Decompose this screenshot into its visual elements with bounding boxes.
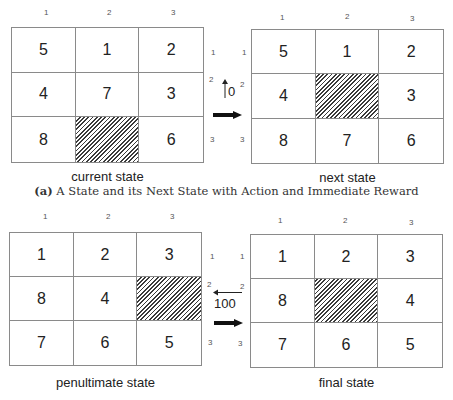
puzzle-grid-next-state: 5 1 2 4 3 8 7 6 [251, 29, 444, 164]
tile: 1 [10, 233, 74, 277]
col-index: 2 [107, 8, 111, 17]
tile: 7 [316, 119, 380, 163]
tile: 1 [316, 30, 380, 74]
puzzle-grid-penultimate-state: 1 2 3 8 4 7 6 5 [9, 232, 202, 366]
col-index: 1 [43, 212, 47, 221]
col-index: 1 [278, 216, 282, 225]
reward-value: 100 [214, 296, 236, 311]
tile: 5 [137, 321, 201, 365]
tile: 8 [10, 277, 74, 321]
tile: 4 [74, 277, 138, 321]
tile: 3 [137, 233, 201, 277]
tile: 3 [378, 235, 442, 279]
blank-tile-hatched [137, 277, 201, 321]
panel-label-penultimate-state: penultimate state [9, 375, 202, 390]
tile: 3 [139, 73, 203, 118]
tile: 2 [74, 233, 138, 277]
row-index: 2 [240, 80, 244, 89]
blank-tile-hatched [76, 117, 140, 162]
tile: 8 [251, 279, 315, 323]
puzzle-grid-final-state: 1 2 3 8 4 7 6 5 [250, 234, 443, 368]
row-index: 1 [210, 252, 214, 261]
row-index: 2 [207, 280, 211, 289]
tile: 4 [12, 73, 76, 118]
tile: 4 [378, 279, 442, 323]
tile: 8 [12, 117, 76, 162]
row-index: 1 [242, 48, 246, 57]
tile: 7 [76, 73, 140, 118]
transition-arrow-icon [213, 111, 242, 119]
tile: 3 [379, 74, 443, 118]
row-index: 2 [209, 75, 213, 84]
tile: 5 [252, 30, 316, 74]
blank-tile-hatched [316, 74, 380, 118]
col-index: 1 [280, 13, 284, 22]
row-index: 1 [240, 252, 244, 261]
tile: 7 [10, 321, 74, 365]
tile: 1 [251, 235, 315, 279]
row-index: 1 [211, 48, 215, 57]
tile: 6 [315, 323, 379, 367]
tile: 2 [379, 30, 443, 74]
row-index: 3 [210, 135, 214, 144]
blank-tile-hatched [315, 279, 379, 323]
row-index: 3 [208, 338, 212, 347]
caption-text: A State and its Next State with Action a… [56, 184, 418, 198]
panel-label-final-state: final state [250, 375, 443, 390]
tile: 6 [139, 117, 203, 162]
action-arrow-left-icon [213, 289, 242, 296]
panel-label-next-state: next state [251, 170, 444, 185]
row-index: 3 [240, 135, 244, 144]
tile: 6 [74, 321, 138, 365]
caption-tag: (a) [34, 184, 52, 198]
col-index: 2 [343, 216, 347, 225]
tile: 4 [252, 74, 316, 118]
figure-caption: (a) A State and its Next State with Acti… [0, 184, 453, 198]
reward-value: 0 [228, 84, 235, 99]
col-index: 3 [410, 14, 414, 23]
puzzle-grid-current-state: 5 1 2 4 7 3 8 6 [11, 27, 204, 163]
col-index: 3 [409, 218, 413, 227]
row-index: 2 [240, 282, 244, 291]
col-index: 1 [44, 8, 48, 17]
col-index: 2 [345, 12, 349, 21]
transition-arrow-icon [214, 319, 243, 327]
panel-label-current-state: current state [11, 169, 204, 184]
tile: 8 [252, 119, 316, 163]
row-index: 3 [238, 339, 242, 348]
col-index: 3 [171, 8, 175, 17]
tile: 2 [139, 28, 203, 73]
tile: 1 [76, 28, 140, 73]
tile: 5 [378, 323, 442, 367]
tile: 2 [315, 235, 379, 279]
col-index: 3 [170, 212, 174, 221]
tile: 7 [251, 323, 315, 367]
col-index: 2 [106, 212, 110, 221]
tile: 5 [12, 28, 76, 73]
tile: 6 [379, 119, 443, 163]
